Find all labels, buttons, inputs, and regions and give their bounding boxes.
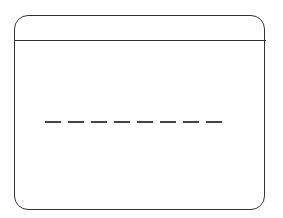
text-placeholder-dashed-line <box>45 121 222 123</box>
dash <box>183 121 199 123</box>
dash <box>160 121 176 123</box>
dash <box>91 121 107 123</box>
dash <box>114 121 130 123</box>
dash <box>45 121 61 123</box>
window-frame <box>14 15 265 210</box>
title-bar-divider <box>14 40 266 41</box>
dash <box>137 121 153 123</box>
dash <box>68 121 84 123</box>
dash <box>206 121 222 123</box>
